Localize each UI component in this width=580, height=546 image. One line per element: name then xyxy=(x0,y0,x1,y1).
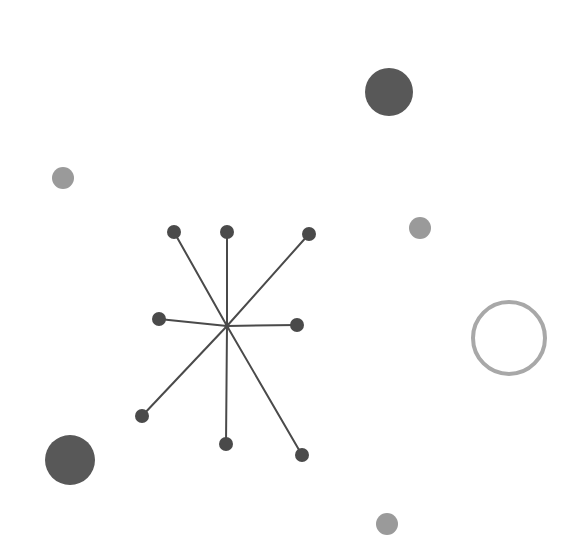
diagram-canvas xyxy=(0,0,580,546)
node-top-right[interactable] xyxy=(302,227,316,241)
circle-large-dark-top-right xyxy=(365,68,413,116)
spoke-to-bottom-center xyxy=(226,326,227,444)
circle-small-gray-bottom xyxy=(376,513,398,535)
spoke-to-right xyxy=(227,325,297,326)
scene-svg xyxy=(0,0,580,546)
circle-small-gray-left xyxy=(52,167,74,189)
star-hub-group xyxy=(225,324,230,329)
node-bottom-left[interactable] xyxy=(135,409,149,423)
node-left[interactable] xyxy=(152,312,166,326)
circle-large-dark-bottom-left xyxy=(45,435,95,485)
node-right[interactable] xyxy=(290,318,304,332)
node-bottom-center[interactable] xyxy=(219,437,233,451)
node-bottom-right[interactable] xyxy=(295,448,309,462)
node-top-center[interactable] xyxy=(220,225,234,239)
star-hub-center[interactable] xyxy=(225,324,230,329)
circle-small-gray-right xyxy=(409,217,431,239)
node-top-left[interactable] xyxy=(167,225,181,239)
